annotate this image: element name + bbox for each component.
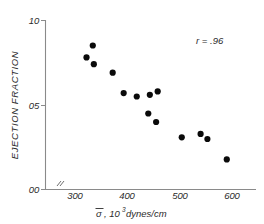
data-point bbox=[155, 88, 161, 94]
data-point bbox=[198, 131, 204, 137]
scatter-plot-figure: 10 05 00 300 400 500 600 σ , 10 3 dynes/… bbox=[0, 0, 264, 224]
correlation-annotation: r = .96 bbox=[196, 35, 224, 46]
x-tick-label-400: 400 bbox=[119, 190, 135, 201]
data-point bbox=[90, 42, 96, 48]
x-axis-title: σ , 10 3 dynes/cm bbox=[96, 206, 167, 219]
data-point bbox=[147, 92, 153, 98]
data-point bbox=[224, 156, 230, 162]
data-point bbox=[145, 110, 151, 116]
data-point bbox=[91, 61, 97, 67]
x-axis-title-rest: , 10 bbox=[104, 208, 121, 219]
y-tick-label-1: 10 bbox=[29, 15, 40, 26]
y-axis-title: EJECTION FRACTION bbox=[9, 51, 20, 159]
data-point bbox=[153, 119, 159, 125]
x-tick-label-300: 300 bbox=[67, 190, 83, 201]
x-axis-title-units: dynes/cm bbox=[126, 208, 167, 219]
x-axis-title-symbol: σ bbox=[96, 208, 103, 219]
data-points-group bbox=[83, 42, 229, 162]
y-tick-label-0-5: 05 bbox=[29, 100, 40, 111]
data-point bbox=[204, 136, 210, 142]
plot-canvas: 10 05 00 300 400 500 600 σ , 10 3 dynes/… bbox=[0, 0, 264, 224]
data-point bbox=[121, 90, 127, 96]
data-point bbox=[134, 93, 140, 99]
x-tick-label-600: 600 bbox=[224, 190, 240, 201]
y-tick-label-0: 00 bbox=[29, 184, 40, 195]
data-point bbox=[83, 54, 89, 60]
data-point bbox=[179, 134, 185, 140]
data-point bbox=[110, 70, 116, 76]
x-tick-label-500: 500 bbox=[172, 190, 188, 201]
